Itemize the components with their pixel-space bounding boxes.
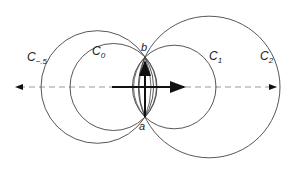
label-c1: C1 <box>209 49 222 65</box>
diagram-canvas: C−.5 C0 C1 C2 b a <box>0 0 292 171</box>
label-point-a: a <box>139 120 145 132</box>
label-c2: C2 <box>260 49 274 65</box>
circles-diagram: C−.5 C0 C1 C2 b a <box>0 0 292 171</box>
label-c0: C0 <box>92 44 106 60</box>
label-point-b: b <box>141 41 147 53</box>
label-c-neg5: C−.5 <box>27 50 48 66</box>
